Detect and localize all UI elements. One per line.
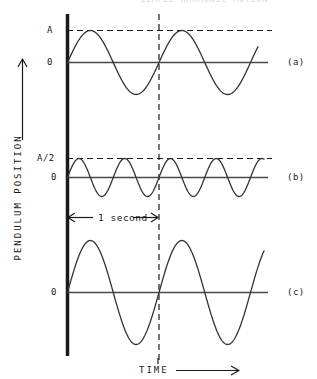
one-second-annotation-label: 1 second — [98, 213, 148, 223]
panel-a-label: (a) — [287, 58, 305, 67]
simple-harmonic-motion-figure: SIMPLE HARMONIC MOTION — [0, 0, 317, 379]
panel-c-zero-tick-label: 0 — [51, 288, 57, 297]
x-axis-label: TIME — [139, 366, 169, 375]
panel-a-amplitude-tick-label: A — [47, 26, 53, 35]
time-axis-arrow — [176, 366, 239, 375]
y-axis-label: PENDULUM POSITION — [14, 141, 23, 261]
panel-b-label: (b) — [287, 173, 305, 182]
panel-b-amplitude-tick-label: A/2 — [37, 154, 55, 163]
pendulum-position-axis-arrow — [18, 59, 27, 140]
panel-b-zero-tick-label: 0 — [51, 173, 57, 182]
panel-c-label: (c) — [287, 288, 305, 297]
panel-a-zero-tick-label: 0 — [47, 58, 53, 67]
